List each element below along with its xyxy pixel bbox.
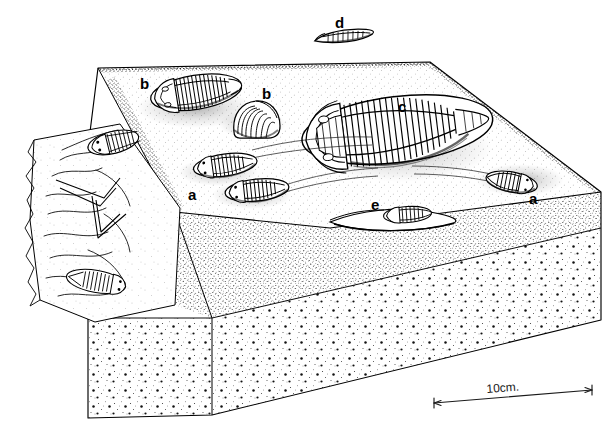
trilobite-block-diagram-figure: d b b c a e a 10cm. — [0, 0, 607, 430]
label-a1: a — [188, 187, 196, 202]
specimen-d-isolated-lateral — [314, 28, 374, 45]
sediment-block — [25, 62, 601, 418]
label-b2: b — [262, 86, 271, 101]
illustration-canvas — [0, 0, 607, 430]
label-a2: a — [529, 191, 537, 206]
label-e: e — [371, 197, 379, 212]
label-c: c — [398, 99, 406, 114]
scale-bar-label: 10cm. — [486, 380, 520, 396]
label-d: d — [335, 15, 344, 30]
label-b1: b — [140, 76, 149, 91]
